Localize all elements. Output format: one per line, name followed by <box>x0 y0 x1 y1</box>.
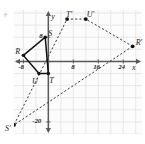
x-tick-label-8: 8 <box>71 63 74 71</box>
point-label-r: R <box>15 47 20 56</box>
point-label-s: S <box>48 29 52 38</box>
point-label-t-prime: T' <box>66 10 72 19</box>
x-tick-label-24: 24 <box>118 63 125 71</box>
y-axis-label: y <box>51 12 55 21</box>
y-tick-label-neg20: -20 <box>32 117 41 125</box>
x-tick-label-neg8: -8 <box>18 63 23 71</box>
graph-figure: + R'S'T'U'RSTU-8816248-20xy <box>0 0 145 144</box>
grid-lines <box>14 10 142 134</box>
point-label-t: T <box>49 76 53 85</box>
x-tick-label-16: 16 <box>93 63 100 71</box>
point-label-s-prime: S' <box>5 124 11 133</box>
y-tick-label-8: 8 <box>39 32 42 40</box>
corner-plus-icon: + <box>2 12 9 19</box>
axes <box>15 11 141 133</box>
point-label-r-prime: R' <box>136 38 143 47</box>
vertex-points <box>14 17 135 127</box>
point-label-u-prime: U' <box>87 10 95 19</box>
point-label-u: U <box>32 77 38 86</box>
coordinate-plane: R'S'T'U'RSTU-8816248-20xy <box>14 10 142 134</box>
plot-svg <box>14 10 142 134</box>
x-axis-label: x <box>132 63 136 72</box>
